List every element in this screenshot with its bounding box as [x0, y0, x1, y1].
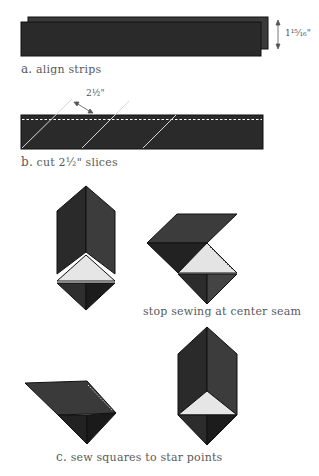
step-c-text: sew squares to star points [71, 451, 223, 464]
front-strip [21, 22, 261, 56]
step-c-caption: c. sew squares to star points [56, 450, 222, 464]
height-dimension-arrow [276, 20, 280, 49]
step-b-text: cut 2½" slices [37, 156, 118, 169]
sewn-strip [21, 115, 263, 149]
step-a-strips [21, 17, 280, 56]
step-b-letter: b. [21, 155, 33, 169]
step-a-caption: a. align strips [21, 62, 101, 76]
star-point-sewing [147, 214, 237, 304]
step-a-text: align strips [36, 63, 101, 76]
star-point-flipped [25, 381, 116, 444]
star-point-unsewn [57, 186, 115, 310]
step-b-caption: b. cut 2½" slices [21, 155, 118, 169]
slice-width-label: 2½" [86, 88, 105, 98]
step-a-letter: a. [21, 62, 32, 76]
stop-sewing-note: stop sewing at center seam [143, 305, 301, 318]
width-dimension-arrow [74, 102, 93, 113]
step-c-letter: c. [56, 450, 67, 464]
step-b-strip [21, 99, 263, 149]
strip-height-label: 1¹⁵⁄₁₆" [285, 28, 311, 38]
star-point-complete [178, 327, 237, 445]
